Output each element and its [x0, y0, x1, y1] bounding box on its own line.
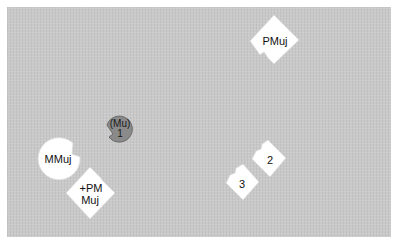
diagram-shapes	[0, 0, 397, 244]
mmuj-label: MMuj	[45, 153, 72, 165]
pmuj-label: PMuj	[262, 35, 287, 47]
node-3-label: 3	[239, 178, 245, 190]
pm-muj-label-line2: Muj	[81, 194, 99, 206]
pm-muj-label-line1: +PM	[80, 182, 103, 194]
node-2-label: 2	[267, 154, 273, 166]
mu1-label-line2: 1	[117, 129, 123, 139]
